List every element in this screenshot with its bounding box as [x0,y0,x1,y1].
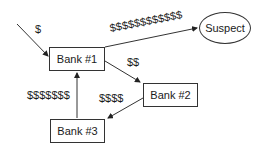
node-label: Bank #1 [57,53,97,65]
node-label: Bank #3 [57,125,97,137]
edge-label-to-bank2: $$ [127,56,139,68]
node-label: Suspect [205,22,245,34]
node-label: Bank #2 [150,89,190,101]
edge-label-in: $ [35,23,41,35]
edge-label-to-bank3: $$$$ [99,92,123,104]
edge-label-to-bank1: $$$$$$$ [27,89,70,101]
node-bank-2: Bank #2 [143,83,198,107]
node-suspect: Suspect [199,12,251,44]
node-bank-1: Bank #1 [49,47,105,71]
node-bank-3: Bank #3 [50,119,105,143]
edge-in-to-bank1 [17,24,48,56]
